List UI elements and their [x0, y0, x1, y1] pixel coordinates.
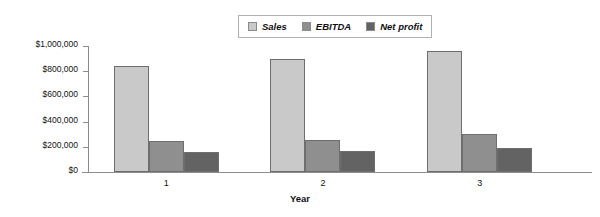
legend-swatch-net-profit [366, 22, 375, 31]
legend-swatch-ebitda [302, 22, 311, 31]
bar-sales [114, 66, 149, 172]
legend-item-ebitda: EBITDA [302, 22, 351, 32]
bar-group: 1 [88, 46, 245, 172]
y-axis-tick-label: $600,000 [43, 90, 78, 99]
legend-swatch-sales [248, 22, 257, 31]
chart-legend: Sales EBITDA Net profit [238, 15, 432, 38]
x-axis-title: Year [0, 193, 600, 204]
y-axis-tick-label: $800,000 [43, 65, 78, 74]
legend-item-sales: Sales [248, 22, 287, 32]
bar-net-profit [340, 151, 375, 172]
bar-sales [270, 59, 305, 172]
y-axis-tick-label: $400,000 [43, 116, 78, 125]
bar-ebitda [305, 140, 340, 172]
bar-group: 2 [245, 46, 402, 172]
legend-item-net-profit: Net profit [366, 22, 422, 32]
x-axis-tick-label: 2 [245, 178, 402, 188]
y-axis-tick-label: $0 [69, 166, 78, 175]
bar-group: 3 [401, 46, 558, 172]
bar-net-profit [184, 152, 219, 172]
y-axis-tick-label: $1,000,000 [35, 40, 78, 49]
bar-net-profit [497, 148, 532, 172]
bar-ebitda [149, 141, 184, 172]
legend-label-net-profit: Net profit [380, 22, 422, 32]
bar-chart: Sales EBITDA Net profit $1,000,000$800,0… [0, 0, 600, 217]
bar-sales [427, 51, 462, 172]
x-axis-tick-label: 3 [401, 178, 558, 188]
x-axis-tick-label: 1 [88, 178, 245, 188]
bar-ebitda [462, 134, 497, 172]
x-axis-line [82, 172, 592, 173]
legend-label-ebitda: EBITDA [316, 22, 351, 32]
legend-label-sales: Sales [262, 22, 287, 32]
y-axis-tick-label: $200,000 [43, 141, 78, 150]
plot-area: $1,000,000$800,000$600,000$400,000$200,0… [88, 46, 558, 172]
y-axis-tick-mark [83, 172, 88, 173]
